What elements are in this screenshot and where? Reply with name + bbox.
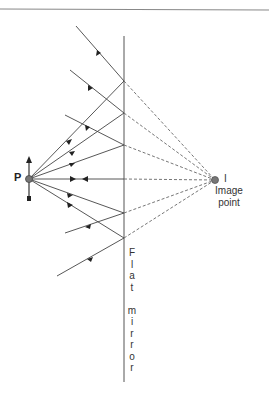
object-label: P: [14, 171, 21, 183]
mirror-letter: i: [127, 316, 137, 328]
virtual-ray-extensions: [124, 81, 215, 238]
image-label: I: [224, 173, 227, 184]
mirror-letter: r: [127, 328, 137, 340]
mirror-letter: r: [127, 362, 137, 374]
image-caption-line1: Image: [209, 185, 249, 197]
reflected-rays: [57, 26, 124, 276]
mirror-letter: o: [127, 351, 137, 363]
mirror-letter: m: [127, 305, 137, 317]
mirror-letter: a: [127, 270, 137, 282]
mirror-letter: [127, 293, 137, 305]
image-caption-line2: point: [209, 197, 249, 209]
mirror-letter: r: [127, 339, 137, 351]
mirror-caption: F l a t m i r r o r: [127, 247, 137, 374]
mirror-letter: t: [127, 282, 137, 294]
image-caption: Image point: [209, 185, 249, 209]
image-point: [212, 177, 219, 184]
mirror-letter: F: [127, 247, 137, 259]
top-rule: [0, 9, 269, 10]
mirror-letter: l: [127, 259, 137, 271]
incident-rays: [29, 81, 124, 238]
object-point: [26, 176, 33, 183]
